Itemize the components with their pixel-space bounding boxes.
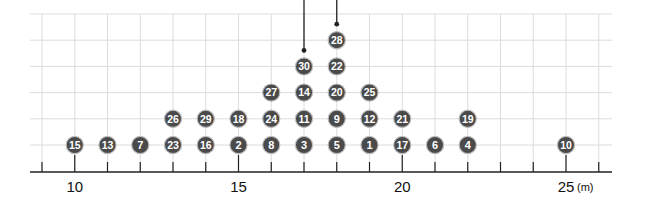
data-point: 30 [295, 58, 312, 75]
data-point: 29 [197, 110, 214, 127]
data-point: 14 [295, 84, 312, 101]
data-point-label: 2 [235, 139, 241, 151]
data-point: 18 [230, 110, 247, 127]
data-point: 8 [263, 136, 280, 153]
data-point: 21 [394, 110, 411, 127]
data-point: 24 [263, 110, 280, 127]
data-point-label: 11 [298, 113, 309, 125]
data-point: 4 [459, 136, 476, 153]
data-point-label: 24 [265, 113, 277, 125]
data-point: 25 [361, 84, 378, 101]
data-point-label: 7 [137, 139, 143, 151]
data-point-label: 12 [364, 113, 376, 125]
x-tick-label: 20 [394, 178, 411, 195]
data-point-label: 3 [301, 139, 307, 151]
data-point-label: 9 [334, 113, 340, 125]
data-point-label: 29 [200, 113, 212, 125]
pointer-dot [302, 48, 307, 53]
data-point-label: 16 [200, 139, 212, 151]
data-point: 10 [557, 136, 574, 153]
data-point-label: 17 [396, 139, 408, 151]
data-point: 11 [295, 110, 312, 127]
data-point: 7 [132, 136, 149, 153]
data-point: 15 [66, 136, 83, 153]
data-point-label: 21 [396, 113, 408, 125]
data-point-label: 20 [331, 86, 343, 98]
data-point-label: 1 [366, 139, 372, 151]
data-point-label: 6 [432, 139, 438, 151]
data-point-label: 27 [265, 86, 277, 98]
dot-plot-chart: 10152025(m) 1513723261629218824273111430… [0, 0, 645, 208]
data-point: 23 [164, 136, 181, 153]
x-tick-label: 15 [230, 178, 247, 195]
data-point-label: 26 [167, 113, 179, 125]
data-point: 20 [328, 84, 345, 101]
data-point: 27 [263, 84, 280, 101]
data-point-label: 22 [331, 60, 343, 72]
data-point-label: 8 [268, 139, 274, 151]
data-point: 17 [394, 136, 411, 153]
data-point-label: 18 [233, 113, 245, 125]
data-point-label: 28 [331, 34, 343, 46]
x-tick-label: 25 [558, 178, 575, 195]
data-point: 26 [164, 110, 181, 127]
data-point-label: 23 [167, 139, 179, 151]
data-point: 1 [361, 136, 378, 153]
unit-label: (m) [577, 181, 594, 193]
data-point: 12 [361, 110, 378, 127]
data-point-label: 4 [465, 139, 472, 151]
grid [30, 14, 612, 172]
data-point-label: 5 [334, 139, 340, 151]
data-point: 16 [197, 136, 214, 153]
data-point-label: 14 [298, 86, 310, 98]
data-point: 2 [230, 136, 247, 153]
data-point-label: 25 [364, 86, 376, 98]
data-point: 6 [426, 136, 443, 153]
data-point-label: 19 [462, 113, 474, 125]
x-tick-label: 10 [66, 178, 83, 195]
data-point: 9 [328, 110, 345, 127]
data-point: 28 [328, 32, 345, 49]
data-point-label: 13 [102, 139, 114, 151]
pointer-dot [334, 22, 339, 27]
data-point: 13 [99, 136, 116, 153]
data-point: 5 [328, 136, 345, 153]
data-point: 22 [328, 58, 345, 75]
data-point: 19 [459, 110, 476, 127]
data-point-label: 10 [560, 139, 572, 151]
data-point-label: 15 [69, 139, 81, 151]
data-point: 3 [295, 136, 312, 153]
data-point-label: 30 [298, 60, 310, 72]
x-axis: 10152025(m) [30, 155, 612, 195]
